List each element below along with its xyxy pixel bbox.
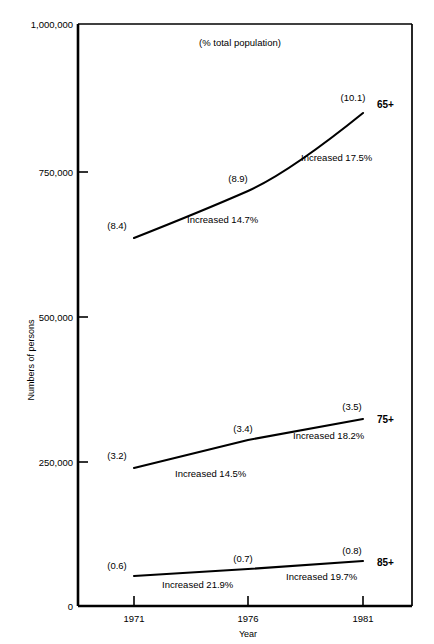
series-65-plus-note-1971-1976: Increased 14.7% [187, 214, 259, 225]
series-85-plus-point-label-1976: (0.7) [233, 553, 253, 564]
header-note-percent-total-population: (% total population) [199, 37, 281, 48]
series-65-plus: (8.4) (8.9) (10.1) Increased 14.7% Incre… [107, 92, 394, 238]
y-tick-label-500000: 500,000 [39, 312, 73, 323]
series-75-plus-note-1971-1976: Increased 14.5% [175, 468, 247, 479]
series-85-plus-note-1971-1976: Increased 21.9% [162, 579, 234, 590]
series-75-plus: (3.2) (3.4) (3.5) Increased 14.5% Increa… [107, 401, 394, 479]
y-axis-ticks [78, 172, 88, 462]
x-axis-tick-labels: 1971 1976 1981 [123, 613, 373, 624]
series-65-plus-note-1976-1981: Increased 17.5% [301, 152, 373, 163]
series-75-plus-note-1976-1981: Increased 18.2% [293, 430, 365, 441]
series-label-75-plus: 75+ [377, 414, 394, 425]
x-axis-title: Year [239, 629, 257, 639]
series-85-plus-point-label-1981: (0.8) [342, 545, 362, 556]
series-65-plus-point-label-1981: (10.1) [341, 92, 366, 103]
series-85-plus: (0.6) (0.7) (0.8) Increased 21.9% Increa… [107, 545, 394, 590]
y-tick-label-1000000: 1,000,000 [31, 19, 73, 30]
x-tick-label-1981: 1981 [352, 613, 373, 624]
series-75-plus-point-label-1976: (3.4) [233, 423, 253, 434]
y-axis-title: Numbers of persons [26, 319, 36, 401]
series-85-plus-point-label-1971: (0.6) [107, 560, 127, 571]
series-75-plus-point-label-1971: (3.2) [107, 450, 127, 461]
series-65-plus-point-label-1971: (8.4) [107, 220, 127, 231]
x-axis-ticks [134, 596, 363, 606]
y-tick-label-250000: 250,000 [39, 457, 73, 468]
y-tick-label-0: 0 [68, 601, 73, 612]
y-axis-tick-labels: 1,000,000 750,000 500,000 250,000 0 [31, 19, 73, 612]
y-tick-label-750000: 750,000 [39, 167, 73, 178]
line-chart: 1,000,000 750,000 500,000 250,000 0 1971… [0, 0, 434, 644]
series-85-plus-note-1976-1981: Increased 19.7% [286, 571, 358, 582]
x-tick-label-1976: 1976 [237, 613, 258, 624]
chart-frame [78, 24, 412, 606]
series-65-plus-point-label-1976: (8.9) [228, 173, 248, 184]
series-label-65-plus: 65+ [377, 99, 394, 110]
series-label-85-plus: 85+ [377, 557, 394, 568]
chart-container: 1,000,000 750,000 500,000 250,000 0 1971… [0, 0, 434, 644]
series-75-plus-point-label-1981: (3.5) [342, 401, 362, 412]
x-tick-label-1971: 1971 [123, 613, 144, 624]
